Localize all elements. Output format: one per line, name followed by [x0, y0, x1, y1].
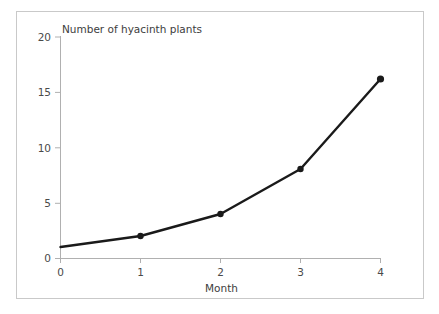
data-point-month-4: [377, 75, 384, 82]
data-point-month-1: [137, 233, 143, 239]
y-tick-label-10: 10: [24, 143, 51, 154]
chart-title: Number of hyacinth plants: [62, 24, 202, 35]
data-line-series-1: [61, 79, 381, 247]
x-tick-label-3: 3: [286, 267, 315, 278]
data-point-markers: [137, 75, 384, 239]
x-tick-label-2: 2: [206, 267, 235, 278]
data-point-month-2: [217, 211, 223, 217]
x-axis-title-text: Month: [205, 282, 238, 294]
x-axis-title: Month: [0, 283, 439, 294]
x-tick-label-4: 4: [366, 267, 395, 278]
chart-figure: Number of hyacinth plants 0 5 10 15 20 0…: [0, 0, 439, 314]
y-tick-label-5: 5: [24, 198, 51, 209]
y-tick-label-20: 20: [24, 32, 51, 43]
data-point-month-3: [297, 166, 303, 172]
x-tick-label-1: 1: [126, 267, 155, 278]
y-axis-ticks: [55, 37, 60, 259]
y-tick-label-0: 0: [24, 253, 51, 264]
x-tick-label-0: 0: [46, 267, 75, 278]
y-tick-label-15: 15: [24, 87, 51, 98]
